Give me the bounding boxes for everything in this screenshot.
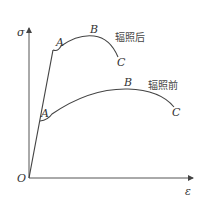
point-b-before: B <box>123 76 132 89</box>
label-before-irradiation: 辐照前 <box>148 79 178 91</box>
curve-before-irradiation <box>40 89 174 121</box>
y-axis-label: σ <box>17 26 25 39</box>
stress-strain-diagram: σ ε O A B C 辐照后 A B C 辐照前 <box>0 0 207 205</box>
point-c-after: C <box>117 56 126 69</box>
point-b-after: B <box>89 23 98 36</box>
point-a-before: A <box>40 107 49 120</box>
x-axis-label: ε <box>185 185 191 198</box>
origin-label: O <box>17 172 26 185</box>
point-a-after: A <box>55 36 64 49</box>
label-after-irradiation: 辐照后 <box>115 31 145 43</box>
point-c-before: C <box>172 106 181 119</box>
